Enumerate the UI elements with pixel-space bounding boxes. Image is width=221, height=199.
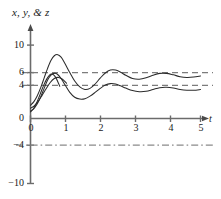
series-z-lower-branch xyxy=(31,77,67,108)
x-tick-label-0: 0 xyxy=(25,122,37,133)
y-tick-label-10: 10 xyxy=(2,39,24,50)
x-tick-label-1: 1 xyxy=(60,122,72,133)
y-axis-arrow-icon xyxy=(28,24,34,31)
x-tick-label-4: 4 xyxy=(165,122,177,133)
y-tick-label-minus-10: −10 xyxy=(0,177,24,188)
series-x xyxy=(31,55,201,106)
chart-figure: x, y, & z t 10 6 4 0 −4 −10 0 1 2 3 4 5 xyxy=(0,0,221,199)
data-curves xyxy=(31,55,201,112)
y-tick-label-0: 0 xyxy=(2,112,24,123)
x-tick-label-5: 5 xyxy=(195,122,207,133)
chart-plot-area xyxy=(0,0,221,199)
series-z xyxy=(31,74,60,112)
x-axis-arrow-icon xyxy=(202,116,209,122)
x-tick-label-3: 3 xyxy=(130,122,142,133)
x-tick-label-2: 2 xyxy=(95,122,107,133)
y-axis-label: x, y, & z xyxy=(12,6,50,18)
y-tick-label-6: 6 xyxy=(2,66,24,77)
x-axis-label: t xyxy=(209,113,212,124)
y-tick-label-minus-4: −4 xyxy=(2,139,24,150)
y-tick-label-4: 4 xyxy=(2,79,24,90)
